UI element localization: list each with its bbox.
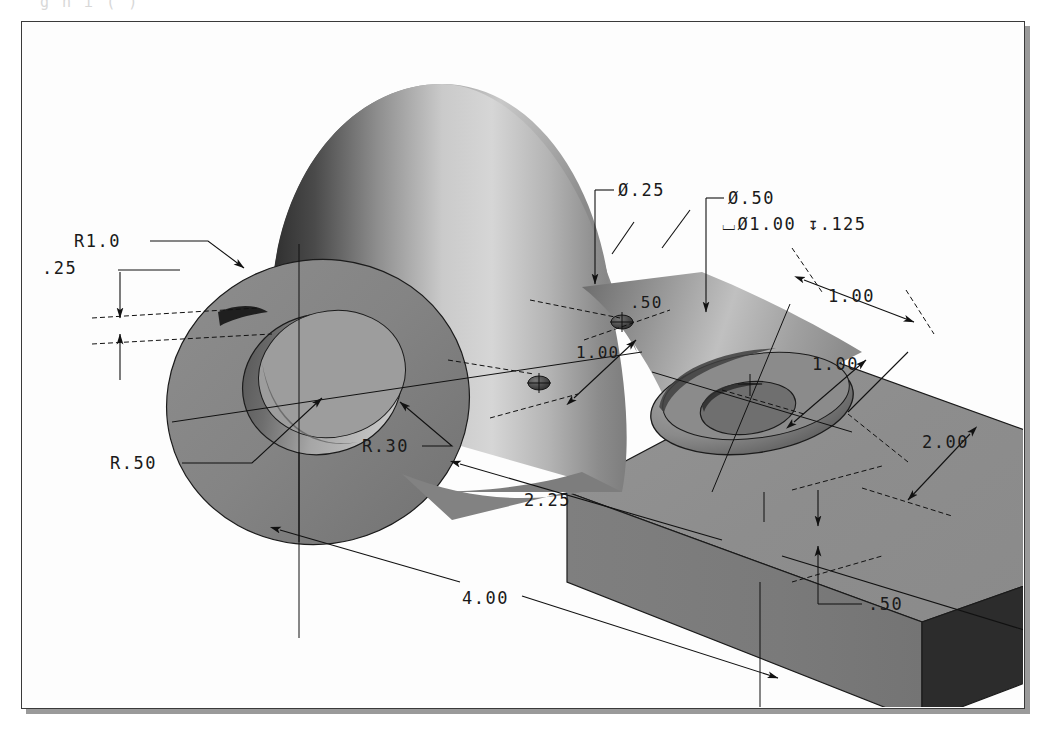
r-30-label: R.30 [362, 436, 409, 456]
thickness-25-label: .25 [42, 258, 77, 278]
dia-25-label: Ø.25 [618, 180, 665, 200]
annotation-r1-0[interactable]: R1.0 [74, 231, 244, 268]
hole-50-label: .50 [630, 293, 663, 312]
height-50-label: .50 [868, 594, 903, 614]
counterbore-note-label: ⌴Ø1.00 ↧.125 [722, 214, 867, 234]
len-225-label: 2.25 [524, 490, 571, 510]
annotation-cbore-x-100[interactable]: 1.00 [792, 248, 934, 334]
hole-100-label: 1.00 [576, 343, 619, 362]
r1-0-label: R1.0 [74, 231, 121, 251]
clipped-header-text: g n i ( ) [40, 0, 139, 11]
drawing-frame: R1.0 .25 R.50 R.30 [21, 21, 1025, 709]
r-50-label: R.50 [110, 453, 157, 473]
drawing-page: g n i ( ) [0, 0, 1044, 735]
cbore-y-100-label: 1.00 [812, 354, 859, 374]
len-400-label: 4.00 [462, 588, 509, 608]
dia-50-label: Ø.50 [728, 188, 775, 208]
width-200-label: 2.00 [922, 432, 969, 452]
isometric-model-canvas: R1.0 .25 R.50 R.30 [22, 22, 1023, 707]
cbore-x-100-label: 1.00 [828, 286, 875, 306]
